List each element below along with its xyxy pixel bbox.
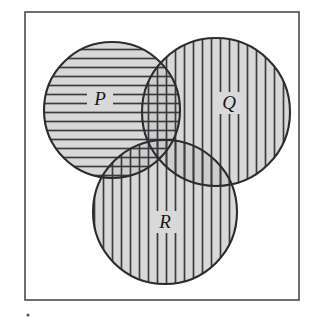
scan-speck-icon — [26, 313, 29, 316]
set-label-p: P — [93, 88, 106, 109]
set-label-q: Q — [222, 92, 236, 113]
set-label-group-r: R — [152, 211, 177, 233]
venn-diagram: P Q R — [0, 0, 316, 325]
figure-canvas: P Q R — [0, 0, 316, 325]
set-label-r: R — [158, 211, 171, 232]
set-label-group-p: P — [87, 88, 113, 110]
set-label-group-q: Q — [216, 92, 242, 114]
